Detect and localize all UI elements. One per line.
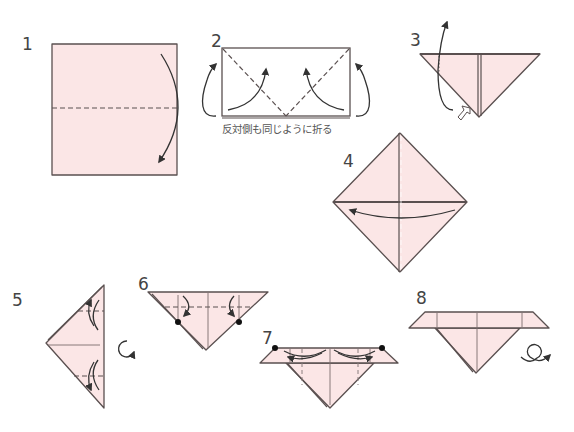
- step-number: 2: [211, 31, 222, 51]
- push-arrow-icon: [458, 106, 470, 120]
- step-7: 7: [260, 328, 398, 408]
- step-number: 3: [410, 30, 421, 50]
- folded-band: [260, 348, 398, 363]
- reference-dot: [175, 319, 181, 325]
- step-number: 5: [12, 290, 23, 310]
- step-number: 4: [343, 151, 354, 171]
- step-5: 5: [12, 285, 134, 408]
- repeat-behind-arrow-icon: [203, 64, 216, 116]
- step-caption: 反対側も同じように折る: [222, 123, 332, 135]
- step-number: 8: [416, 288, 427, 308]
- step-2: 2 反対側も同じように折る: [203, 31, 370, 135]
- step-1: 1: [22, 34, 178, 175]
- step-number: 6: [138, 274, 149, 294]
- rotate-over-icon: [119, 341, 134, 357]
- step-4: 4: [333, 128, 467, 278]
- step-number: 1: [22, 34, 33, 54]
- step-6: 6: [138, 274, 268, 350]
- reference-dot: [272, 345, 278, 351]
- reference-dot: [236, 319, 242, 325]
- repeat-behind-arrow-icon: [356, 64, 369, 116]
- reference-dot: [379, 345, 385, 351]
- step-3: 3: [410, 22, 540, 120]
- step-number: 7: [262, 328, 273, 348]
- triangle-paper: [435, 328, 520, 373]
- triangle-paper: [46, 285, 104, 408]
- flip-over-icon: [521, 345, 550, 362]
- square-paper: [52, 44, 177, 175]
- origami-diagram: 1 2 反対側も同じように折る 3 4 5: [0, 0, 574, 432]
- folded-band: [409, 312, 549, 328]
- step-8: 8: [409, 288, 550, 373]
